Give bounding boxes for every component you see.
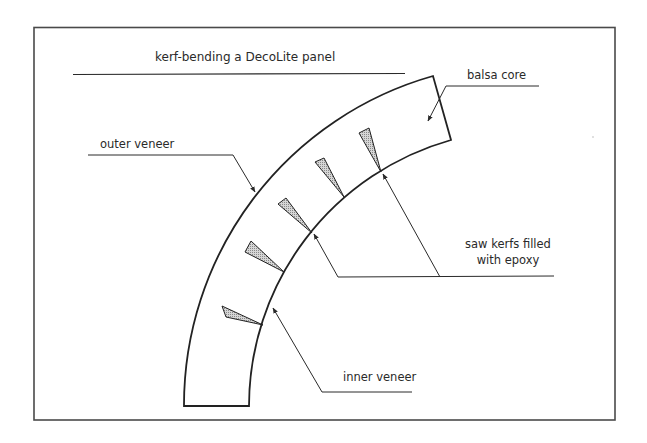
saw-kerfs-label-line2: with epoxy xyxy=(477,253,540,267)
kerf-wedge-1 xyxy=(222,306,263,325)
saw-kerfs-label-line1: saw kerfs filled xyxy=(465,237,551,251)
title-underline xyxy=(73,74,405,75)
kerf-wedge-3 xyxy=(278,198,312,233)
inner-veneer-label: inner veneer xyxy=(343,370,417,384)
outer-veneer-leader xyxy=(88,155,255,192)
outer-veneer-label: outer veneer xyxy=(100,137,175,151)
balsa-core-label: balsa core xyxy=(467,68,526,82)
kerf-wedge-2 xyxy=(245,241,284,272)
saw-kerfs xyxy=(222,128,381,325)
saw-kerfs-leader-a xyxy=(383,174,440,277)
diagram-title: kerf-bending a DecoLite panel xyxy=(155,50,335,64)
scan-speck xyxy=(592,136,593,137)
kerf-bending-diagram: kerf-bending a DecoLite panel balsa core… xyxy=(0,0,647,443)
kerf-wedge-4 xyxy=(315,158,344,197)
saw-kerfs-leader-b xyxy=(314,234,338,277)
saw-kerfs-baseline xyxy=(338,276,554,277)
kerf-wedge-5 xyxy=(359,128,381,172)
